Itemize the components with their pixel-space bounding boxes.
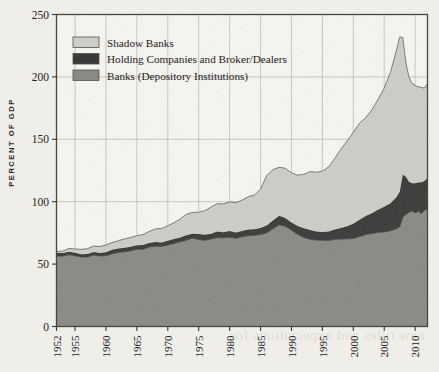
legend-label-1: Holding Companies and Broker/Dealers xyxy=(107,53,287,65)
x-tick-label: 1995 xyxy=(317,335,329,358)
legend-swatch-2 xyxy=(73,70,99,81)
y-tick-label: 150 xyxy=(32,133,50,145)
y-tick-label: 200 xyxy=(32,71,50,83)
y-tick-label: 250 xyxy=(32,9,50,21)
x-tick-label: 1985 xyxy=(255,335,267,358)
x-tick-label: 2010 xyxy=(409,335,421,358)
x-tick-label: 2000 xyxy=(348,335,360,358)
x-tick-label: 1960 xyxy=(100,335,112,358)
chart-figure: 0501001502002501952195519601965197019751… xyxy=(0,0,439,372)
x-tick-label: 1965 xyxy=(131,335,143,358)
x-tick-label: 2005 xyxy=(378,335,390,358)
x-tick-label: 1955 xyxy=(69,335,81,358)
stacked-area-chart: 0501001502002501952195519601965197019751… xyxy=(0,0,439,372)
y-axis-title: PERCENT OF GDP xyxy=(7,98,16,187)
x-axis: 1952195519601965197019751980198519901995… xyxy=(51,327,422,358)
x-tick-label: 1975 xyxy=(193,335,205,358)
legend-label-0: Shadow Banks xyxy=(107,37,174,49)
x-tick-label: 1990 xyxy=(286,335,298,358)
legend-swatch-0 xyxy=(73,37,99,48)
y-tick-label: 0 xyxy=(43,321,49,333)
x-tick-label: 1952 xyxy=(51,336,63,358)
legend-swatch-1 xyxy=(73,54,99,65)
x-tick-label: 1970 xyxy=(162,335,174,358)
legend-label-2: Banks (Depository Institutions) xyxy=(107,70,248,83)
y-tick-label: 100 xyxy=(32,196,50,208)
y-axis: 050100150200250 xyxy=(32,9,57,333)
y-tick-label: 50 xyxy=(38,258,50,270)
x-tick-label: 1980 xyxy=(224,335,236,358)
